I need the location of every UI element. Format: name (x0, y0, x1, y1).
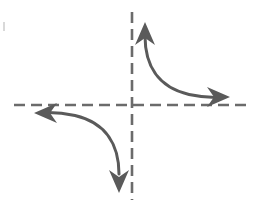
hyperbola-diagram: Hyperbola branches with dashed coordinat… (0, 0, 263, 209)
lower-left-branch-group (34, 103, 129, 193)
figure-canvas: Hyperbola branches with dashed coordinat… (0, 0, 263, 209)
edge-artifact (3, 22, 5, 31)
axes-group (14, 12, 248, 200)
upper-right-branch-group (135, 22, 230, 107)
